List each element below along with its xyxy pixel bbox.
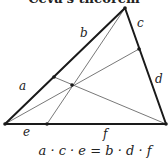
side-right bbox=[125, 8, 166, 124]
vertex-bottom-left bbox=[3, 122, 7, 126]
label-a: a bbox=[19, 80, 26, 92]
side-left bbox=[5, 8, 125, 124]
label-d: d bbox=[155, 73, 163, 85]
foot-right-side bbox=[137, 47, 141, 51]
concurrency-point bbox=[70, 83, 74, 87]
ceva-equation: a · c · e = b · d · f bbox=[0, 143, 168, 158]
ceva-diagram: Ceva's theorem a b c d e f a · c · e = b… bbox=[0, 0, 168, 159]
foot-left-side bbox=[52, 75, 56, 79]
vertex-top bbox=[123, 6, 127, 10]
label-c: c bbox=[137, 17, 144, 29]
label-b: b bbox=[80, 27, 88, 39]
label-f: f bbox=[103, 128, 107, 140]
label-e: e bbox=[23, 126, 30, 138]
foot-base bbox=[45, 122, 49, 126]
vertex-bottom-right bbox=[164, 122, 168, 126]
